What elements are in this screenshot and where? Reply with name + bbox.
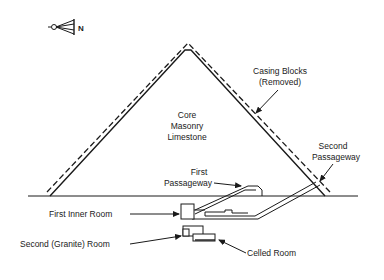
core-label-2: Masonry <box>171 121 204 131</box>
second-room-label: Second (Granite) Room <box>20 239 110 249</box>
casing-arrow <box>256 90 278 113</box>
casing-label-1: Casing Blocks <box>253 66 307 76</box>
celled-room-arrow <box>219 240 246 253</box>
north-label: N <box>78 24 84 33</box>
casing-label-2: (Removed) <box>259 77 301 87</box>
first-passage-arrow <box>214 183 241 186</box>
first-inner-room <box>181 204 194 219</box>
core-label-3: Limestone <box>167 132 206 142</box>
second-passage-arrow <box>320 164 333 181</box>
first-passage-label-2: Passageway <box>164 178 213 188</box>
pyramid-cross-section-diagram: N Core Masonry Limestone Casing Blocks (… <box>0 0 384 280</box>
core-label-1: Core <box>178 110 197 120</box>
celled-room <box>193 234 215 241</box>
first-passage-label-1: First <box>191 167 208 177</box>
first-inner-room-label: First Inner Room <box>49 209 112 219</box>
north-arrow-icon: N <box>48 19 84 35</box>
second-passage-label-2: Passageway <box>312 152 361 162</box>
second-passage-label-1: Second <box>319 141 348 151</box>
second-room-arrow <box>130 236 181 244</box>
celled-room-label: Celled Room <box>247 248 296 258</box>
